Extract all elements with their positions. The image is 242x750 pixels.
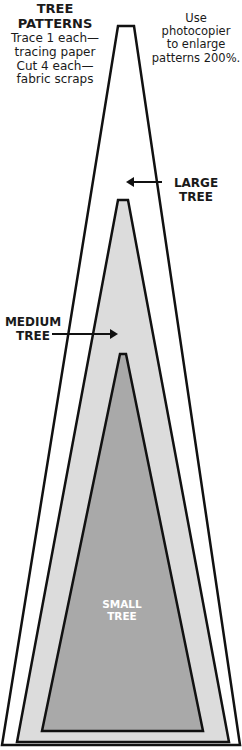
instruction-line: fabric scraps xyxy=(0,73,110,87)
small-tree-label: SMALL TREE xyxy=(90,598,154,622)
instructions: Trace 1 each— tracing paper Cut 4 each— … xyxy=(0,32,110,87)
label-line: MEDIUM xyxy=(2,316,64,330)
instruction-line: Cut 4 each— xyxy=(0,60,110,74)
title-line-1: TREE xyxy=(0,2,110,17)
enlarge-note: Use photocopier to enlarge patterns 200%… xyxy=(150,12,242,65)
title-line-2: PATTERNS xyxy=(0,17,110,32)
page-title: TREE PATTERNS xyxy=(0,2,110,32)
instruction-line: tracing paper xyxy=(0,46,110,60)
note-line: to enlarge xyxy=(150,38,242,51)
note-line: patterns 200%. xyxy=(150,52,242,65)
tree-patterns-diagram: TREE PATTERNS Trace 1 each— tracing pape… xyxy=(0,0,242,750)
medium-tree-label: MEDIUM TREE xyxy=(2,316,64,344)
note-line: Use photocopier xyxy=(150,12,242,38)
label-line: TREE xyxy=(166,191,226,205)
label-line: LARGE xyxy=(166,177,226,191)
label-line: TREE xyxy=(2,330,64,344)
tree-shapes xyxy=(0,0,242,750)
large-tree-label: LARGE TREE xyxy=(166,177,226,205)
label-line: TREE xyxy=(90,610,154,622)
instruction-line: Trace 1 each— xyxy=(0,32,110,46)
label-line: SMALL xyxy=(90,598,154,610)
